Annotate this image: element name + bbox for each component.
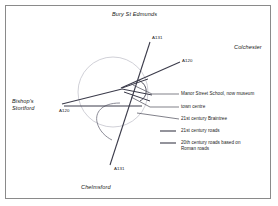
legend-item-20th-century-roman-roads: 20th century roads based on Roman roads: [181, 140, 271, 152]
road-label-a120-west: A120: [59, 108, 70, 113]
place-line: Bishop's: [12, 98, 34, 105]
legend-line: Roman roads: [181, 146, 271, 152]
place-label-chelmsford: Chelmsford: [81, 184, 111, 191]
place-label-bishops-stortford: Bishop's Stortford: [12, 98, 34, 112]
place-label-bury-st-edmunds: Bury St Edmunds: [112, 11, 157, 18]
legend-item-21st-century-roads: 21st century roads: [181, 128, 271, 134]
road-label-a120-east: A120: [182, 58, 193, 63]
place-label-colchester: Colchester: [234, 44, 262, 51]
road-label-a131-north: A131: [152, 35, 163, 40]
place-line: Bury St Edmunds: [112, 11, 157, 18]
annotation-21st-century-braintree: 21st century Braintree: [181, 116, 227, 122]
road-label-a131-south: A131: [114, 166, 125, 171]
road-a120-west: [62, 89, 122, 104]
road-a120-east: [121, 62, 180, 88]
leader-21st-century-braintree: [137, 113, 179, 119]
map-graphic: [0, 0, 278, 206]
annotation-town-centre: town centre: [181, 104, 205, 110]
place-line: Chelmsford: [81, 184, 111, 191]
legend-line: 21st century roads: [181, 128, 271, 134]
place-line: Colchester: [234, 44, 262, 51]
town-core-arc: [97, 103, 120, 140]
annotation-manor-street-school: Manor Street School, now museum: [181, 91, 254, 97]
figure-root: Bury St Edmunds Colchester Bishop's Stor…: [0, 0, 278, 206]
place-line: Stortford: [12, 105, 34, 112]
